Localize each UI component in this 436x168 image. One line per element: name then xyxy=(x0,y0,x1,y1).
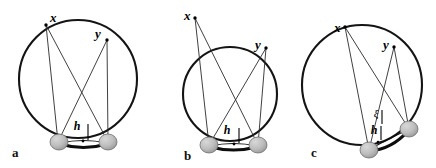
panel-b-h-label: h xyxy=(224,123,231,137)
panel-a-disk-right xyxy=(99,134,117,150)
panel-b-h-dot xyxy=(233,143,236,146)
panel-a-point-y-dot xyxy=(105,38,108,41)
panel-b-ray-x-to-disk-left xyxy=(195,18,209,145)
panel-b-point-y-dot xyxy=(264,46,267,49)
panel-c-point-x-label: x xyxy=(333,20,341,35)
panel-c: ξ h x y c xyxy=(302,20,422,160)
panel-c-point-x-dot xyxy=(343,25,346,28)
panel-c-point-y-label: y xyxy=(381,37,389,52)
panel-c-disk-left xyxy=(360,142,378,158)
panel-b-disk-left xyxy=(200,137,218,153)
panel-b-letter: b xyxy=(184,148,191,163)
panel-b-point-x-dot xyxy=(193,16,196,19)
panel-c-xi-label: ξ xyxy=(374,107,379,120)
panel-a-ray-x-to-disk-left xyxy=(46,25,58,142)
panel-c-point-y-dot xyxy=(392,45,395,48)
panel-b-disk-right xyxy=(249,137,267,153)
panel-a-h-label: h xyxy=(74,119,81,133)
panel-a-point-x-label: x xyxy=(49,10,57,25)
panel-a: h x y a xyxy=(12,10,137,160)
panel-a-ray-y-to-disk-right xyxy=(107,40,108,142)
panel-c-disk-right xyxy=(400,121,418,137)
panel-c-h-label: h xyxy=(371,123,378,137)
panel-a-letter: a xyxy=(12,145,19,160)
panel-a-h-dot xyxy=(82,140,85,143)
geometry-diagram: h x y a h x y b xyxy=(0,0,436,168)
panel-b-point-y-label: y xyxy=(253,37,261,52)
figure-container: h x y a h x y b xyxy=(0,0,436,168)
panel-a-point-x-dot xyxy=(44,23,47,26)
panel-c-h-dot xyxy=(377,141,380,144)
panel-a-point-y-label: y xyxy=(93,26,101,41)
panel-b-ray-y-to-disk-right xyxy=(258,48,266,145)
panel-b: h x y b xyxy=(183,8,277,163)
panel-b-point-x-label: x xyxy=(183,8,191,23)
panel-a-disk-left xyxy=(50,134,68,150)
panel-c-letter: c xyxy=(311,145,317,160)
